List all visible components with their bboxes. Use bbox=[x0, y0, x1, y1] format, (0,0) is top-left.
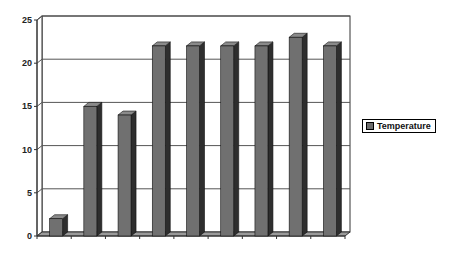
plot-side-wall bbox=[37, 16, 42, 236]
bar-8 bbox=[289, 33, 307, 236]
bar-6 bbox=[221, 42, 239, 236]
legend-label: Temperature bbox=[377, 121, 431, 131]
bar-2 bbox=[84, 102, 102, 236]
bar-1 bbox=[50, 215, 68, 236]
bar-9 bbox=[323, 42, 341, 236]
y-tick-label: 15 bbox=[22, 101, 32, 111]
y-tick-label: 10 bbox=[22, 145, 32, 155]
y-tick-label: 20 bbox=[22, 58, 32, 68]
bar-4 bbox=[152, 42, 170, 236]
y-tick-label: 5 bbox=[27, 188, 32, 198]
bar-7 bbox=[255, 42, 273, 236]
y-tick-label: 0 bbox=[27, 231, 32, 241]
y-tick-label: 25 bbox=[22, 15, 32, 25]
bar-5 bbox=[187, 42, 205, 236]
bar-3 bbox=[118, 111, 136, 236]
legend-swatch-icon bbox=[366, 122, 374, 130]
chart-legend: Temperature bbox=[362, 119, 436, 133]
